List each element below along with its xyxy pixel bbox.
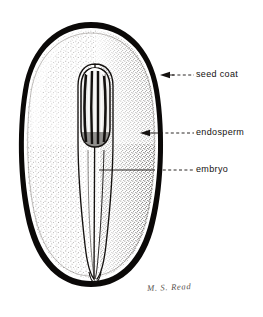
seed-diagram-illustration xyxy=(0,0,263,317)
label-seed-coat: seed coat xyxy=(196,70,238,79)
seed-anatomy-figure: seed coat endosperm embryo M. S. Read xyxy=(0,0,263,317)
artist-signature: M. S. Read xyxy=(147,281,192,293)
label-endosperm: endosperm xyxy=(196,128,244,137)
label-embryo: embryo xyxy=(196,165,228,174)
